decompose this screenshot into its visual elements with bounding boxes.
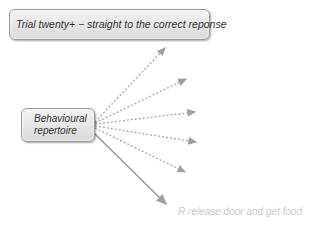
repertoire-label-line2: repertoire — [34, 125, 94, 137]
dashed-arrow-2 — [95, 79, 186, 123]
dashed-arrow-5 — [95, 128, 185, 172]
dashed-arrow-4 — [95, 126, 196, 142]
trial-twenty-label: Trial twenty+ − straight to the correct … — [16, 18, 227, 30]
repertoire-label-line1: Behavioural — [34, 113, 94, 125]
behavioural-repertoire-box: Behavioural repertoire — [21, 108, 95, 142]
solid-arrow — [95, 134, 166, 204]
dashed-arrow-1 — [95, 48, 165, 122]
trial-twenty-box: Trial twenty+ − straight to the correct … — [9, 9, 210, 40]
dashed-arrow-3 — [95, 112, 195, 124]
outcome-label: R release door and get food — [178, 206, 302, 217]
